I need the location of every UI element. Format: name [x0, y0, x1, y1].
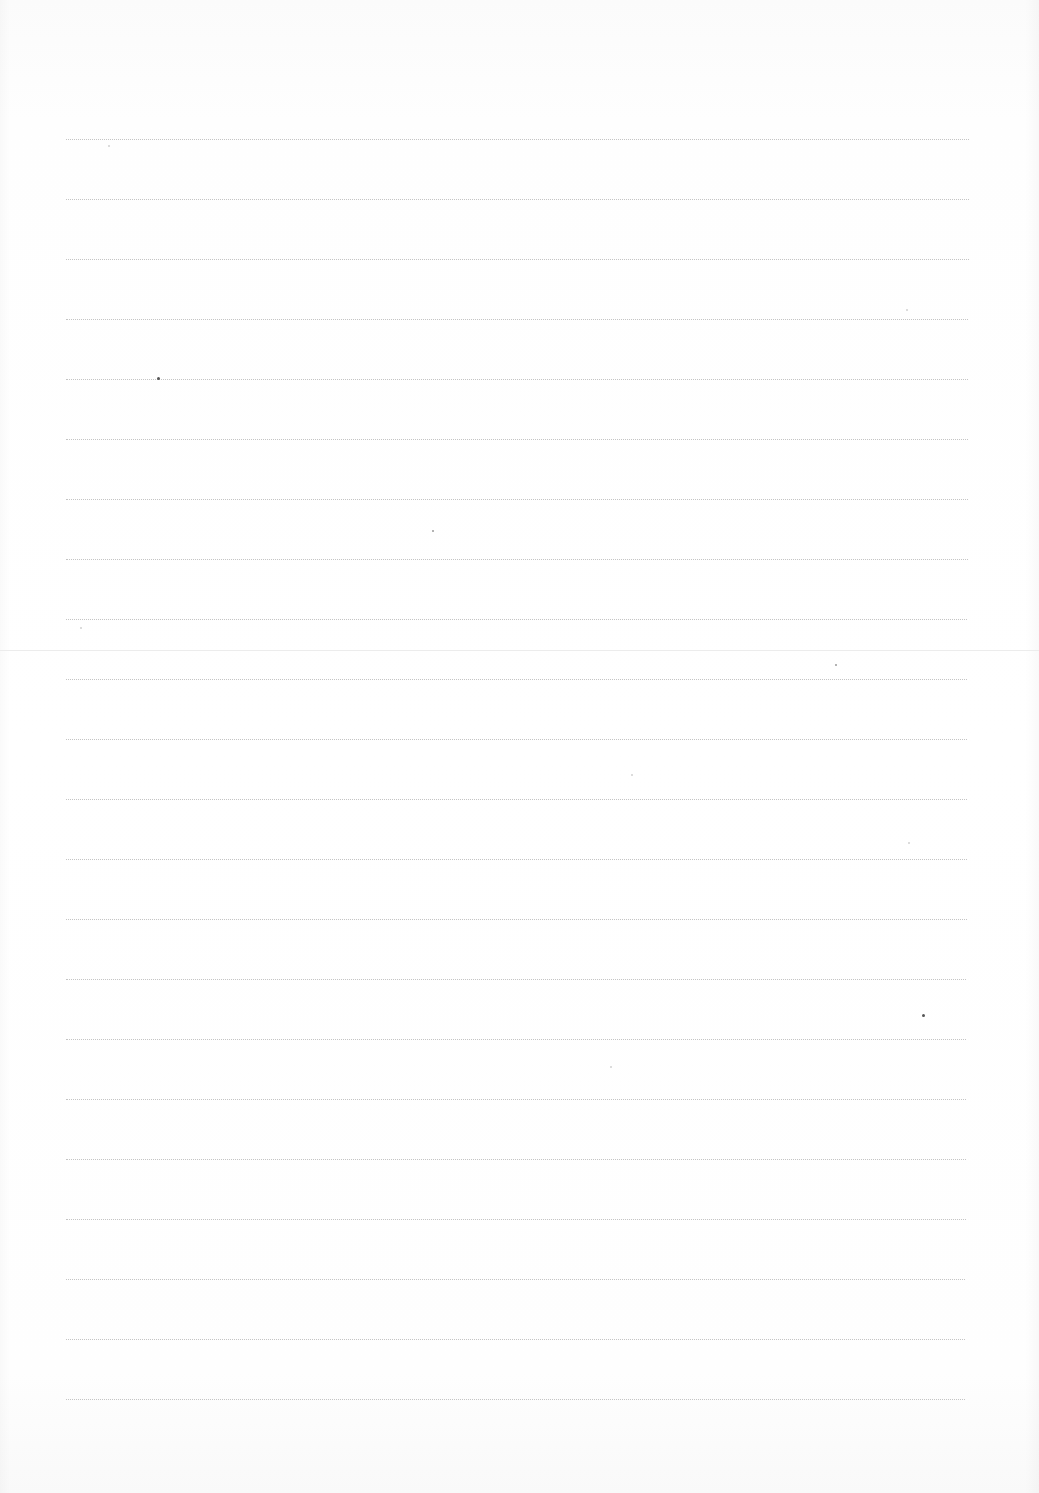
paper-edge-shadow-right [1025, 0, 1039, 1493]
scan-speck [157, 377, 160, 380]
paper-fold-crease [0, 650, 1039, 651]
scan-speck [108, 145, 110, 147]
ruled-line [66, 1219, 966, 1220]
scan-speck [835, 664, 837, 666]
scan-speck [610, 1066, 612, 1068]
ruled-line [66, 559, 968, 560]
scan-speck [432, 530, 434, 532]
paper-edge-shadow-left [0, 0, 10, 1493]
ruled-line [66, 259, 969, 260]
ruled-line [66, 199, 969, 200]
ruled-line [66, 979, 966, 980]
ruled-line [66, 919, 967, 920]
ruled-line [66, 1279, 965, 1280]
scan-speck [631, 774, 633, 776]
scan-speck [922, 1014, 925, 1017]
ruled-line [66, 1339, 965, 1340]
scan-speck [80, 627, 82, 629]
ruled-line [66, 1039, 966, 1040]
ruled-line [66, 499, 968, 500]
ruled-line [66, 799, 967, 800]
lined-paper-page [0, 0, 1039, 1493]
ruled-line [66, 739, 967, 740]
ruled-line [66, 139, 969, 140]
ruled-line [66, 319, 968, 320]
ruled-line [66, 1159, 966, 1160]
ruled-line [66, 439, 968, 440]
scan-speck [908, 842, 910, 844]
ruled-line [66, 859, 967, 860]
ruled-line [66, 619, 967, 620]
ruled-line [66, 379, 968, 380]
ruled-line [66, 679, 967, 680]
scan-speck [906, 309, 908, 311]
ruled-line [66, 1099, 966, 1100]
ruled-line [66, 1399, 965, 1400]
